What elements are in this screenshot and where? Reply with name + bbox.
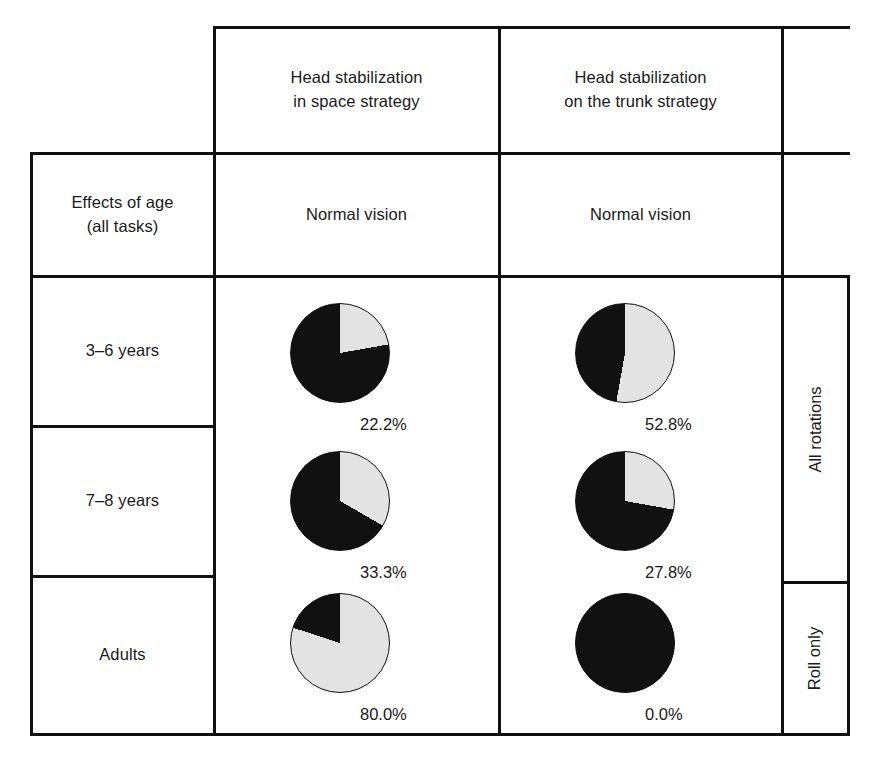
row-label-adults: Adults (32, 577, 213, 733)
pie-value-label: 0.0% (645, 705, 683, 724)
pie-cell-age-3-6-trunk: 52.8% (500, 277, 781, 425)
grid-bottom-border (30, 733, 850, 736)
side-label-all-rotations: All rotations (783, 277, 847, 581)
row-label-age-7-8: 7–8 years (32, 427, 213, 575)
row-label-age-3-6: 3–6 years (32, 277, 213, 425)
pie-cell-age-7-8-space: 33.3% (215, 427, 498, 575)
pie-chart (290, 303, 390, 403)
pie-cell-age-3-6-space: 22.2% (215, 277, 498, 425)
pie-cell-age-7-8-trunk: 27.8% (500, 427, 781, 575)
corner-label-effects-of-age: Effects of age (all tasks) (32, 154, 213, 275)
side-label-roll-only-text: Roll only (806, 626, 825, 689)
column-subtitle-space: Normal vision (215, 154, 498, 275)
pie-chart (290, 451, 390, 551)
column-subtitle-trunk: Normal vision (500, 154, 781, 275)
pie-cell-adults-trunk: 0.0% (500, 577, 781, 733)
pie-cell-adults-space: 80.0% (215, 577, 498, 733)
pie-chart (575, 451, 675, 551)
pie-chart (575, 303, 675, 403)
side-label-roll-only: Roll only (783, 583, 847, 733)
side-label-all-rotations-text: All rotations (806, 386, 825, 472)
column-header-trunk: Head stabilization on the trunk strategy (500, 28, 781, 152)
column-header-space: Head stabilization in space strategy (215, 28, 498, 152)
pie-chart (290, 593, 390, 693)
grid-right-border (847, 275, 850, 736)
pie-chart (575, 593, 675, 693)
pie-value-label: 80.0% (360, 705, 407, 724)
figure-canvas: Head stabilization in space strategy Hea… (0, 0, 880, 763)
grid-header-col2-right (781, 26, 784, 275)
